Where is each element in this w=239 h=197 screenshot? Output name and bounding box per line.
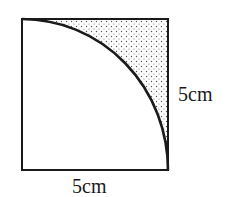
bottom-side-length-label: 5cm — [72, 175, 107, 197]
shaded-region — [22, 19, 168, 170]
right-side-length-label: 5cm — [178, 83, 213, 105]
quarter-circle-in-square-diagram: 5cm 5cm — [0, 0, 239, 197]
